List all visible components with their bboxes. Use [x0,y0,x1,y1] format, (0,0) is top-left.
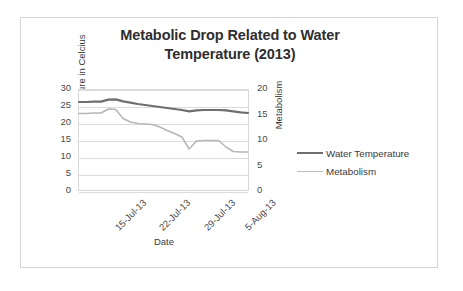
chart-title: Metabolic Drop Related to Water Temperat… [57,26,403,64]
y2-axis-tick-label: 15 [257,108,268,119]
legend-label: Metabolism [326,166,376,177]
legend-item[interactable]: Water Temperature [297,144,425,162]
y-axis-ticks: 302520151050 [42,82,74,198]
legend-swatch-icon [297,152,323,154]
y-axis-tick-label: 30 [60,82,71,93]
chart-frame: Metabolic Drop Related to Water Temperat… [20,17,438,268]
y2-axis-tick-label: 20 [257,82,268,93]
legend-item[interactable]: Metabolism [297,162,425,180]
chart-legend: Water TemperatureMetabolism [297,144,425,180]
x-axis-ticks: 15-Jul-1322-Jul-1329-Jul-135-Aug-13 [78,191,249,237]
y2-axis-ticks: 20151050 [253,82,275,198]
y-axis-tick-label: 5 [66,167,71,178]
plot-area [78,89,249,191]
y-axis-tick-label: 0 [66,184,71,195]
chart-title-line-1: Metabolic Drop Related to Water [57,26,403,45]
x-axis-tick-label: 15-Jul-13 [112,197,148,233]
y2-axis-tick-label: 0 [257,184,262,195]
y2-axis-title: Metabolism [273,62,287,148]
x-axis-tick-label: 5-Aug-13 [242,197,277,232]
y2-axis-tick-label: 5 [257,159,262,170]
y2-axis-tick-label: 10 [257,133,268,144]
legend-label: Water Temperature [326,148,409,159]
x-axis-tick-label: 29-Jul-13 [201,197,237,233]
y-axis-tick-label: 20 [60,116,71,127]
legend-swatch-icon [297,171,323,172]
y-axis-tick-label: 10 [60,150,71,161]
chart-title-line-2: Temperature (2013) [57,45,403,64]
x-axis-tick-label: 22-Jul-13 [157,197,193,233]
y-axis-tick-label: 25 [60,99,71,110]
x-axis-title: Date [119,236,209,247]
series-lines [79,90,248,190]
series-line-2 [79,109,248,152]
y-axis-tick-label: 15 [60,133,71,144]
